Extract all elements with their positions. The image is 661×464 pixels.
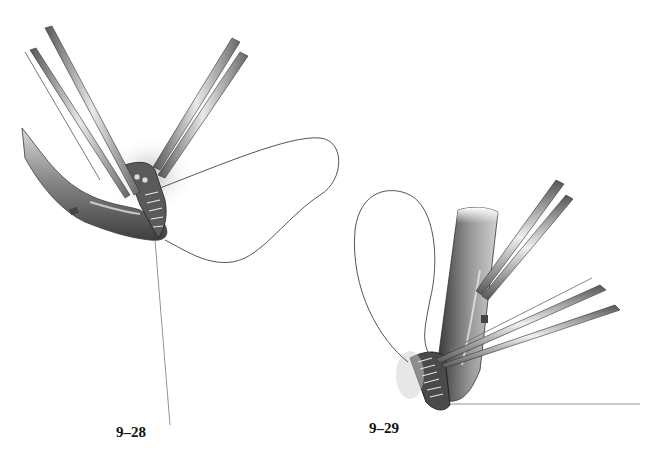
suture-loop [354, 191, 434, 362]
surgical-illustration-9-29 [330, 150, 661, 464]
vessel-clip [481, 315, 488, 323]
suture-tail [155, 240, 170, 425]
figure-9-28-illustration [0, 0, 350, 464]
figure-caption-9-29: 9–29 [369, 420, 399, 437]
figure-9-29-illustration [330, 150, 661, 464]
surgical-illustration-9-28 [0, 0, 350, 464]
forceps-right [153, 38, 248, 178]
figure-caption-9-28: 9–28 [116, 424, 146, 441]
